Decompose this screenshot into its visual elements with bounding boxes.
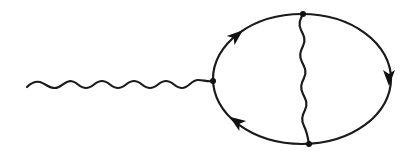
bottom-vertex bbox=[306, 141, 312, 147]
left-vertex bbox=[210, 78, 216, 84]
feynman-diagram bbox=[0, 0, 419, 155]
internal-photon-line bbox=[300, 14, 309, 144]
right-arrow-icon bbox=[383, 70, 395, 86]
external-photon-line bbox=[27, 80, 213, 88]
top-vertex bbox=[300, 11, 306, 17]
